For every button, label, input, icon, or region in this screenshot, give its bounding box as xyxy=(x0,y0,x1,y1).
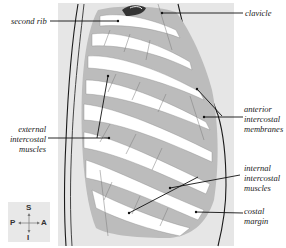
label-internal-intercostal-muscles: internal intercostal muscles xyxy=(244,163,280,193)
anatomy-diagram: second rib clavicle anterior intercostal… xyxy=(0,0,286,248)
label-anterior-intercostal-membranes: anterior intercostal membranes xyxy=(244,104,283,134)
label-external-intercostal-muscles: external intercostal muscles xyxy=(4,124,46,154)
compass-posterior: P xyxy=(10,218,15,227)
compass-superior: S xyxy=(26,203,31,212)
label-clavicle: clavicle xyxy=(245,8,271,18)
posterior-body-outline xyxy=(65,4,79,246)
label-costal-margin: costal margin xyxy=(244,206,268,226)
compass-inferior: I xyxy=(27,233,29,242)
compass-anterior: A xyxy=(41,218,47,227)
label-second-rib: second rib xyxy=(11,16,47,26)
orientation-compass: S I P A xyxy=(8,202,50,242)
